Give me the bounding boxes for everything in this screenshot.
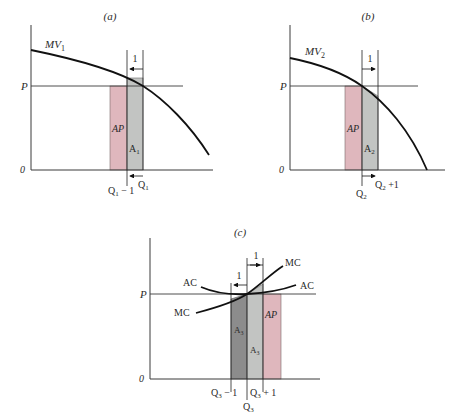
diagram-canvas: (a) 1 MV1 P 0 AP A1 Q1 − 1 Q1 (b) [0,0,458,419]
panel-c-area-light-rect [247,284,263,379]
panel-a-zero-label: 0 [20,164,25,175]
panel-b-unit-label: 1 [368,53,373,64]
panel-b: (b) 1 MV2 P 0 AP A2 Q2 Q2 +1 [279,10,445,201]
panel-c-ap-label: AP [264,309,277,320]
panel-a-unit-label: 1 [133,53,138,64]
panel-b-ap-label: AP [346,123,359,134]
panel-c-unit-label-left: 1 [237,270,242,281]
panel-b-q-left-label: Q2 [356,188,367,201]
panel-c: (c) 1 1 AC AC MC MC P 0 AP A3 A3 Q3 − 1 … [139,226,320,414]
panel-b-q-right-label: Q2 +1 [375,179,399,192]
panel-c-q-plus-label: Q3 + 1 [250,387,276,400]
panel-c-ac-label-right: AC [300,280,314,291]
panel-c-q-center-label: Q3 [243,401,254,414]
panel-b-title: (b) [362,10,375,23]
panel-a-area-rect [127,78,143,170]
panel-b-curve-label: MV2 [304,45,325,60]
panel-a-ap-label: AP [111,123,124,134]
panel-c-ap-rect [263,294,281,379]
panel-c-zero-label: 0 [139,373,144,384]
panel-c-mc-label-right: MC [285,257,301,268]
panel-a: (a) 1 MV1 P 0 AP A1 Q1 − 1 Q1 [20,10,213,198]
panel-b-p-label: P [279,80,287,92]
panel-c-unit-label-right: 1 [254,250,259,261]
panel-a-curve-label: MV1 [44,38,65,53]
panel-c-q-minus-label: Q3 − 1 [211,387,237,400]
panel-c-mc-label-left: MC [174,307,190,318]
panel-c-area-dark-rect [231,294,247,379]
panel-c-ac-label-left: AC [183,277,197,288]
panel-a-q-left-label: Q1 − 1 [108,185,134,198]
panel-b-zero-label: 0 [279,164,284,175]
panel-a-q-right-label: Q1 [138,179,149,192]
panel-a-title: (a) [104,10,117,23]
panel-c-title: (c) [234,226,247,239]
panel-c-p-label: P [139,288,147,300]
panel-a-p-label: P [20,80,28,92]
panel-b-area-rect [362,86,378,170]
